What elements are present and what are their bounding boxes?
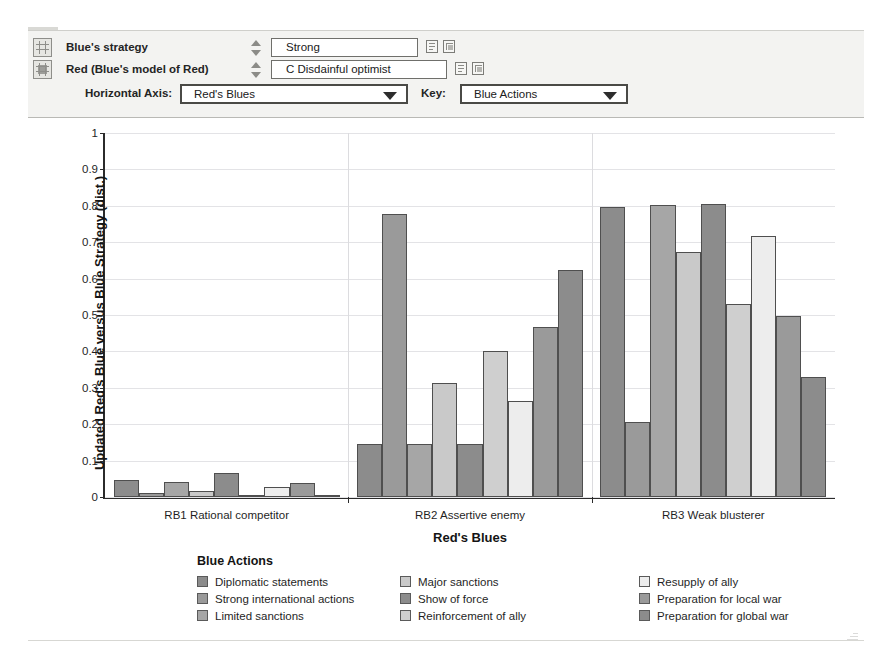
bar (558, 270, 583, 498)
red-model-field[interactable]: C Disdainful optimist (271, 60, 447, 79)
bar (508, 401, 533, 497)
key-label: Key: (421, 87, 446, 99)
y-axis-tick (100, 351, 105, 352)
bar (432, 383, 457, 497)
blue-strategy-tools (426, 40, 460, 55)
legend-title: Blue Actions (128, 554, 828, 568)
y-axis-tick-label: 0.2 (82, 418, 98, 430)
blue-strategy-label: Blue's strategy (66, 41, 148, 53)
y-axis-tick (100, 242, 105, 243)
paste-icon[interactable] (443, 40, 455, 53)
legend-item[interactable]: Diplomatic statements (197, 573, 354, 590)
plot-area: Updated Red's Blue versus Blue Strategy … (103, 133, 835, 499)
paste-icon[interactable] (472, 62, 484, 75)
red-model-tools (455, 62, 489, 77)
y-axis-tick (100, 424, 105, 425)
y-axis-tick-label: 0.4 (82, 345, 98, 357)
chevron-down-icon (383, 92, 397, 100)
y-axis-tick-label: 0 (92, 491, 98, 503)
bar (701, 204, 726, 497)
bar (315, 495, 340, 497)
legend-item[interactable]: Reinforcement of ally (400, 607, 526, 624)
blue-strategy-field[interactable]: Strong (271, 38, 418, 57)
legend-swatch (400, 610, 411, 621)
y-axis-tick-label: 0.3 (82, 382, 98, 394)
copy-icon[interactable] (455, 62, 467, 75)
grid-line (105, 133, 835, 134)
y-axis-tick (100, 206, 105, 207)
y-axis-tick (100, 388, 105, 389)
grid-filled-icon[interactable] (33, 60, 52, 79)
bar (290, 483, 315, 497)
legend-swatch (639, 576, 650, 587)
bar (533, 327, 558, 497)
bar (751, 236, 776, 497)
legend-item[interactable]: Preparation for global war (639, 607, 789, 624)
legend-column: Diplomatic statementsStrong internationa… (197, 573, 354, 624)
grid-line (105, 497, 835, 498)
key-value: Blue Actions (474, 88, 537, 100)
legend-swatch (639, 610, 650, 621)
y-axis-tick (100, 461, 105, 462)
y-axis-tick-label: 1 (92, 127, 98, 139)
blue-strategy-spinner[interactable] (250, 40, 262, 56)
legend-item[interactable]: Strong international actions (197, 590, 354, 607)
bar (189, 491, 214, 497)
legend-item[interactable]: Limited sanctions (197, 607, 354, 624)
legend-label: Preparation for local war (657, 593, 782, 605)
legend-item[interactable]: Show of force (400, 590, 526, 607)
legend-item[interactable]: Resupply of ally (639, 573, 789, 590)
legend-item[interactable]: Major sanctions (400, 573, 526, 590)
legend-label: Show of force (418, 593, 488, 605)
red-model-spinner[interactable] (250, 62, 262, 78)
x-axis-tick (592, 497, 593, 503)
x-axis-title: Red's Blues (433, 530, 507, 545)
y-axis-tick (100, 133, 105, 134)
y-axis-tick-label: 0.9 (82, 163, 98, 175)
bar (264, 487, 289, 497)
legend-label: Major sanctions (418, 576, 499, 588)
bar (457, 444, 482, 497)
y-axis-tick (100, 169, 105, 170)
legend-swatch (197, 576, 208, 587)
x-axis-group-label: RB2 Assertive enemy (415, 509, 525, 521)
bar (801, 377, 826, 497)
resize-handle-icon[interactable] (846, 629, 858, 641)
footer-divider (28, 640, 864, 641)
x-axis-group-label: RB3 Weak blusterer (662, 509, 765, 521)
bar (382, 214, 407, 497)
y-axis-tick-label: 0.5 (82, 309, 98, 321)
x-axis-tick (348, 497, 349, 503)
chart-container: Updated Red's Blue versus Blue Strategy … (28, 122, 864, 647)
bar (483, 351, 508, 497)
legend-label: Diplomatic statements (215, 576, 328, 588)
bar (114, 480, 139, 497)
group-separator (348, 133, 349, 497)
horizontal-axis-value: Red's Blues (194, 88, 255, 100)
legend-label: Resupply of ally (657, 576, 738, 588)
control-panel: Blue's strategy Strong Red (Blue's model… (28, 30, 864, 118)
bar (239, 495, 264, 497)
bar (357, 444, 382, 497)
y-axis-tick (100, 315, 105, 316)
y-axis-tick (100, 497, 105, 498)
bar (407, 444, 432, 498)
bar (776, 316, 801, 497)
legend-swatch (639, 593, 650, 604)
grid-icon[interactable] (33, 38, 52, 57)
bar (650, 205, 675, 497)
copy-icon[interactable] (426, 40, 438, 53)
legend-label: Reinforcement of ally (418, 610, 526, 622)
key-dropdown[interactable]: Blue Actions (460, 84, 628, 104)
bar (139, 493, 164, 497)
grid-line (105, 169, 835, 170)
legend-item[interactable]: Preparation for local war (639, 590, 789, 607)
bar (676, 252, 701, 497)
legend-swatch (197, 610, 208, 621)
bar (625, 422, 650, 497)
legend-label: Strong international actions (215, 593, 354, 605)
bar (726, 304, 751, 497)
horizontal-axis-dropdown[interactable]: Red's Blues (180, 84, 408, 104)
chart-legend: Blue Actions Diplomatic statementsStrong… (128, 554, 828, 625)
y-axis-tick-label: 0.8 (82, 200, 98, 212)
